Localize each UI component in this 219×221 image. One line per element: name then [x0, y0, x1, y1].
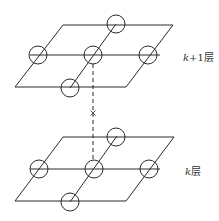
layer-upper [15, 15, 173, 97]
layer-upper-label-suffix: +1层 [189, 52, 214, 63]
layer-upper-plane [15, 25, 173, 87]
layer-upper-label: k+1层 [183, 49, 214, 64]
layer-lower-label: k层 [185, 163, 201, 178]
layer-lower [15, 128, 174, 211]
layer-lower-label-suffix: 层 [191, 166, 201, 177]
inter-layer-connector [91, 64, 96, 160]
layered-grid-diagram [0, 0, 219, 221]
